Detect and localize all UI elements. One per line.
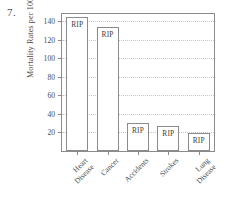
y-axis-tick: [58, 132, 62, 133]
item-number: 7.: [7, 6, 16, 18]
y-axis-tick: [58, 95, 62, 96]
plot-area: 20406080100120140RIPRIPRIPRIPRIP: [62, 14, 214, 151]
bar-cancer[interactable]: RIP: [97, 27, 119, 151]
x-axis-tick: [168, 151, 169, 155]
y-axis-tick: [58, 40, 62, 41]
x-axis-label-lung-disease: LungDisease: [155, 156, 217, 202]
mortality-bar-chart-figure: 7. Mortality Rates per 100,000 204060801…: [0, 0, 237, 202]
y-axis-tick: [58, 21, 62, 22]
bar-value-label: RIP: [98, 30, 118, 39]
y-axis-tick: [58, 77, 62, 78]
bar-value-label: RIP: [158, 129, 178, 138]
x-axis-tick: [199, 151, 200, 155]
bar-value-label: RIP: [189, 136, 209, 145]
y-axis-tick-label: 100: [44, 54, 55, 63]
bar-heart-disease[interactable]: RIP: [66, 17, 88, 151]
y-axis-tick-label: 140: [44, 17, 55, 26]
x-axis-tick: [108, 151, 109, 155]
y-axis-tick-label: 60: [47, 91, 55, 100]
y-axis-tick-label: 120: [44, 35, 55, 44]
y-axis-tick-label: 40: [47, 109, 55, 118]
x-axis-tick: [138, 151, 139, 155]
bar-strokes[interactable]: RIP: [157, 126, 179, 151]
y-axis-tick-label: 20: [47, 128, 55, 137]
plot-frame: 20406080100120140RIPRIPRIPRIPRIP: [61, 13, 215, 152]
bar-value-label: RIP: [128, 126, 148, 135]
bar-lung-disease[interactable]: RIP: [188, 133, 210, 151]
x-axis-tick: [77, 151, 78, 155]
y-axis-tick: [58, 58, 62, 59]
x-axis-category-labels: HeartDiseaseCancerAccidentsStrokesLungDi…: [61, 156, 215, 202]
bar-value-label: RIP: [67, 20, 87, 29]
y-axis-tick: [58, 114, 62, 115]
y-axis-title: Mortality Rates per 100,000: [26, 0, 35, 101]
y-axis-tick-label: 80: [47, 72, 55, 81]
bar-accidents[interactable]: RIP: [127, 123, 149, 151]
